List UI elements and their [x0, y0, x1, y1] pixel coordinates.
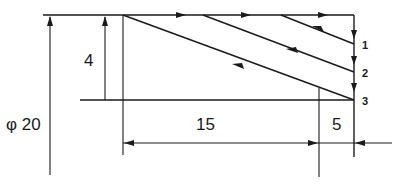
diameter-label: φ 20: [6, 115, 41, 134]
arrow-up-icon: [47, 16, 53, 26]
arrow-return-icon: [312, 26, 324, 32]
pass-1-diagonal: [281, 15, 354, 44]
arrow-right-icon: [241, 12, 251, 18]
arrow-return-icon: [286, 47, 298, 53]
arrow-return-icon: [232, 63, 244, 69]
arrow-right-icon: [308, 140, 318, 146]
pass-1-label: 1: [362, 39, 368, 51]
arrow-up-icon: [102, 16, 108, 26]
pass-2-label: 2: [362, 67, 368, 79]
arrow-down-icon: [351, 30, 357, 39]
taper-length-label: 15: [196, 115, 215, 134]
taper-turning-diagram: φ 20 4 15 5 1 2 3: [0, 0, 402, 190]
arrow-down-icon: [351, 83, 357, 92]
end-length-label: 5: [332, 115, 341, 134]
arrow-down-icon: [351, 56, 357, 65]
height-label: 4: [84, 51, 93, 70]
arrow-left-icon: [124, 140, 134, 146]
pass-2-diagonal: [203, 15, 354, 72]
pass-3-label: 3: [362, 95, 368, 107]
arrow-left-icon: [355, 140, 365, 146]
arrow-right-icon: [318, 12, 328, 18]
arrow-right-icon: [176, 12, 186, 18]
